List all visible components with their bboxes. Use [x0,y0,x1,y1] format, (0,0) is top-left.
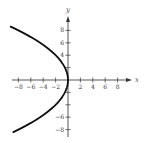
x-tick-label: −8 [14,83,23,90]
x-tick-label: 4 [91,83,95,90]
y-tick-label: −6 [55,113,64,120]
x-axis-arrow-icon [126,78,132,82]
x-tick-label: 6 [103,83,107,90]
x-tick-label: 8 [116,83,120,90]
y-tick-label: 4 [60,51,64,58]
x-tick-label: −2 [51,83,60,90]
x-tick-label: −4 [39,83,48,90]
y-tick-label: −8 [55,126,64,133]
parabola-chart: x y −8−6−4−22468 864−6−8 [0,0,144,143]
x-tick-label: −6 [26,83,35,90]
y-tick-label: 6 [60,39,64,46]
x-tick-label: 2 [78,83,82,90]
y-tick-label: 8 [60,26,64,33]
y-axis-label: y [65,6,71,14]
x-axis-label: x [135,76,139,84]
axes: x y [12,6,139,137]
y-axis-arrow-icon [66,16,70,22]
